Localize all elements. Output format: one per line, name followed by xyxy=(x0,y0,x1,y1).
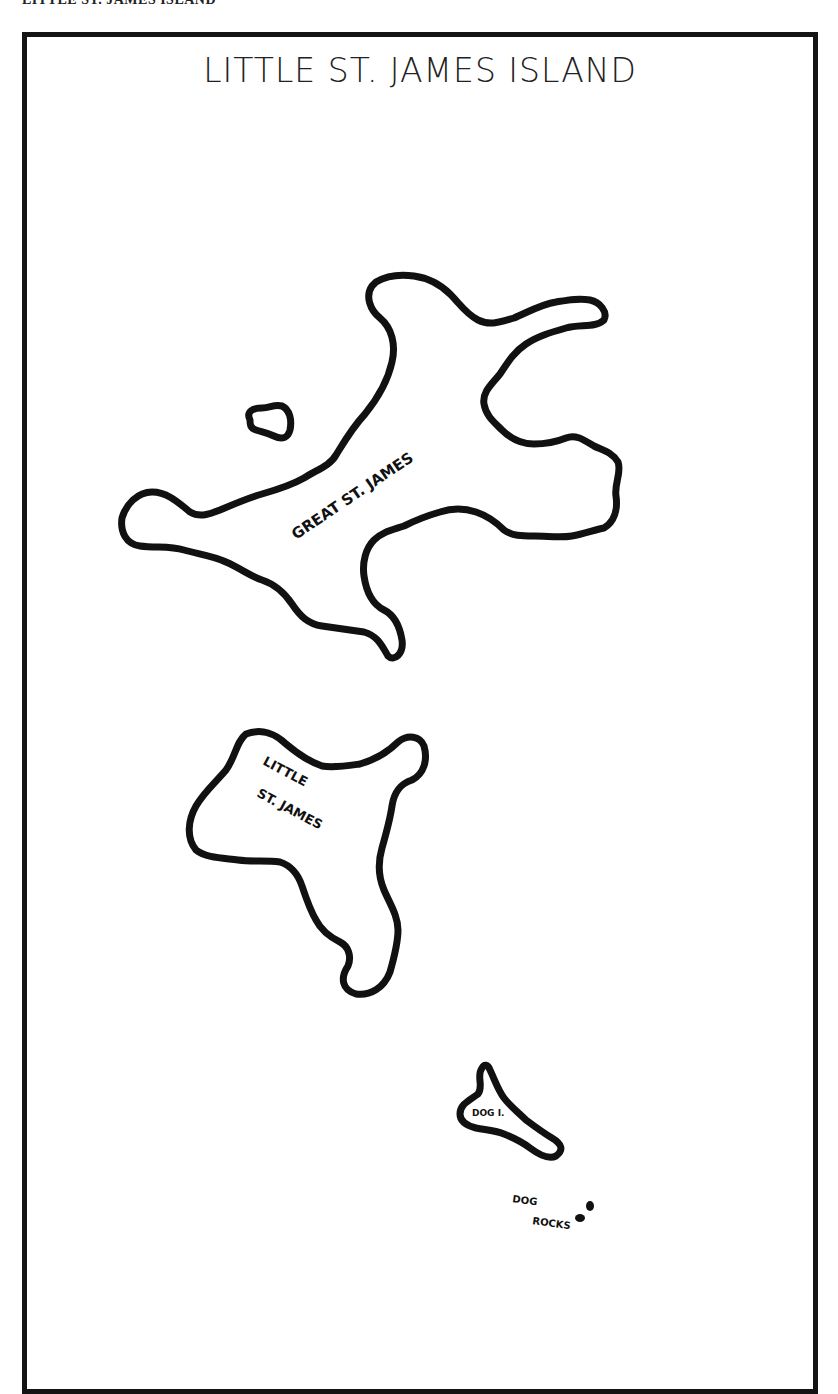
dog-rocks: DOG ROCKS xyxy=(512,1193,594,1231)
dog-rocks-label-line2: ROCKS xyxy=(532,1215,572,1231)
dog-island-label: DOG I. xyxy=(472,1108,504,1118)
little-st-james-island: LITTLE ST. JAMES xyxy=(189,732,425,995)
great-st-james-island: GREAT ST. JAMES xyxy=(122,275,620,658)
dog-island: DOG I. xyxy=(460,1065,561,1157)
dog-rocks-label-line1: DOG xyxy=(512,1193,538,1207)
islet xyxy=(249,405,291,438)
